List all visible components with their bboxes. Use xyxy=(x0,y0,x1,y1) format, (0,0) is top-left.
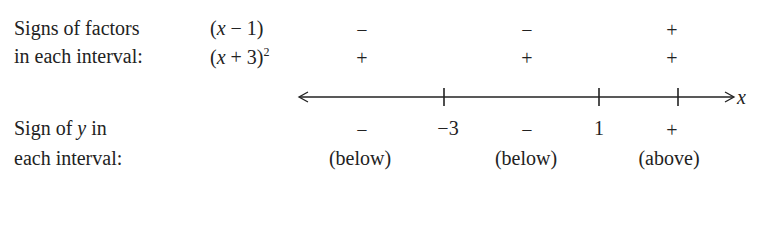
y-sign-interval-3: + xyxy=(666,120,677,140)
sign-y-label-line1: Sign of y in xyxy=(14,118,107,138)
y-sign-interval-1: − xyxy=(356,120,367,140)
axis-variable: x xyxy=(737,87,746,107)
y-sign-interval-2: − xyxy=(521,120,532,140)
y-desc-interval-1: (below) xyxy=(329,148,391,168)
y-desc-interval-3: (above) xyxy=(638,148,699,168)
tick-label-minus-3: −3 xyxy=(437,118,458,138)
sign-y-label-line2: each interval: xyxy=(14,148,122,168)
tick-label-1: 1 xyxy=(594,118,604,138)
y-desc-interval-2: (below) xyxy=(495,148,557,168)
